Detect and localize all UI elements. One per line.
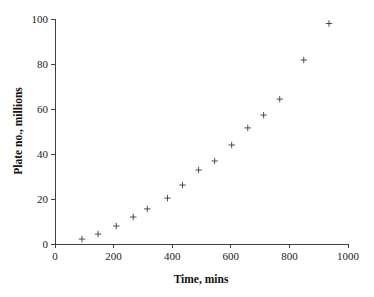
y-tick-label: 0 bbox=[43, 238, 49, 250]
data-point-markers bbox=[79, 20, 332, 242]
y-tick-label: 80 bbox=[37, 58, 49, 70]
x-tick-label: 600 bbox=[223, 250, 240, 262]
y-axis-ticks bbox=[51, 19, 55, 244]
y-axis-title: Plate no., millions bbox=[12, 87, 24, 175]
data-point-marker bbox=[260, 112, 266, 118]
data-point-marker bbox=[164, 195, 170, 201]
x-axis-ticks bbox=[55, 244, 348, 248]
plot-area: 020406080100 02004006008001000 Time, min… bbox=[0, 0, 374, 297]
x-tick-label: 1000 bbox=[337, 250, 360, 262]
y-tick-label: 40 bbox=[37, 148, 49, 160]
data-point-marker bbox=[211, 158, 217, 164]
scatter-chart: 020406080100 02004006008001000 Time, min… bbox=[0, 0, 374, 297]
y-axis-tick-labels: 020406080100 bbox=[32, 13, 49, 250]
x-tick-label: 800 bbox=[281, 250, 298, 262]
data-point-marker bbox=[179, 182, 185, 188]
data-point-marker bbox=[228, 142, 234, 148]
x-tick-label: 0 bbox=[52, 250, 58, 262]
y-tick-label: 60 bbox=[37, 103, 49, 115]
data-point-marker bbox=[95, 231, 101, 237]
x-axis-title: Time, mins bbox=[174, 273, 229, 285]
data-point-marker bbox=[79, 236, 85, 242]
x-axis-tick-labels: 02004006008001000 bbox=[52, 250, 359, 262]
data-point-marker bbox=[277, 96, 283, 102]
data-point-marker bbox=[130, 214, 136, 220]
data-point-marker bbox=[326, 20, 332, 26]
x-tick-label: 200 bbox=[105, 250, 122, 262]
data-point-marker bbox=[245, 125, 251, 131]
data-point-marker bbox=[195, 167, 201, 173]
data-point-marker bbox=[144, 206, 150, 212]
y-tick-label: 20 bbox=[37, 193, 49, 205]
y-tick-label: 100 bbox=[32, 13, 49, 25]
data-point-marker bbox=[113, 223, 119, 229]
data-point-marker bbox=[301, 57, 307, 63]
x-tick-label: 400 bbox=[164, 250, 181, 262]
